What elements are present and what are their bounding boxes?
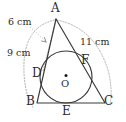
leader-arrowhead-6cm [42,38,47,43]
triangle-abc [37,19,105,103]
center-dot [65,74,68,77]
vertex-dot-a [55,19,57,21]
geometry-figure: A B C D E F O 6 cm 9 cm 11 cm [0,0,126,122]
tangent-label-d: D [32,67,42,79]
dimension-label-ac: 11 cm [80,37,109,47]
vertex-label-a: A [51,2,60,14]
vertex-label-b: B [26,95,35,107]
tangent-label-e: E [62,105,71,117]
dimension-label-ad: 6 cm [8,17,31,27]
vertex-label-c: C [104,95,113,107]
dimension-label-ab: 9 cm [7,48,30,58]
center-label-o: O [61,79,69,89]
tangent-label-f: F [81,54,89,66]
